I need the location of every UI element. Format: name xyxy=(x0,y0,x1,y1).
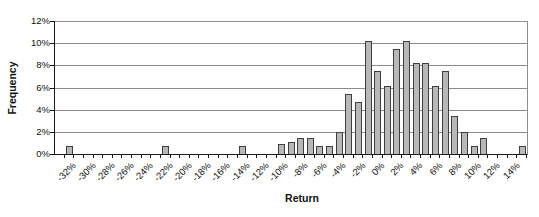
gridline xyxy=(55,65,527,66)
histogram-bar xyxy=(365,41,372,154)
x-tick-mark xyxy=(266,155,267,158)
y-tick-label: 0% xyxy=(18,148,50,159)
x-tick-mark xyxy=(73,155,74,158)
x-tick-mark xyxy=(121,155,122,158)
x-tick-mark xyxy=(218,155,219,158)
x-tick-mark xyxy=(285,155,286,158)
histogram-bar xyxy=(451,116,458,154)
x-tick-label: 4% xyxy=(408,160,425,177)
histogram-bar xyxy=(432,86,439,154)
y-tick-label: 12% xyxy=(18,15,50,26)
x-tick-label: 6% xyxy=(427,160,444,177)
x-tick-mark xyxy=(102,155,103,158)
histogram-bar xyxy=(278,144,285,154)
y-tick-mark xyxy=(50,21,54,22)
x-tick-mark xyxy=(507,155,508,158)
x-tick-label: 2% xyxy=(388,160,405,177)
x-tick-label: -18% xyxy=(190,160,213,183)
histogram-bar xyxy=(307,138,314,154)
x-tick-mark xyxy=(372,155,373,158)
x-tick-mark xyxy=(64,155,65,158)
x-tick-label: -4% xyxy=(328,160,348,180)
histogram-bar xyxy=(355,102,362,154)
x-tick-mark xyxy=(112,155,113,158)
x-tick-label: -6% xyxy=(309,160,329,180)
x-tick-mark xyxy=(353,155,354,158)
x-tick-label: -30% xyxy=(74,160,97,183)
x-tick-label: -2% xyxy=(347,160,367,180)
x-tick-label: -32% xyxy=(55,160,78,183)
x-tick-mark xyxy=(276,155,277,158)
x-tick-mark xyxy=(516,155,517,158)
x-tick-mark xyxy=(333,155,334,158)
gridline xyxy=(55,88,527,89)
histogram-bar xyxy=(288,142,295,154)
histogram-bar xyxy=(326,146,333,154)
x-tick-mark xyxy=(468,155,469,158)
x-tick-label: -8% xyxy=(290,160,310,180)
x-tick-mark xyxy=(131,155,132,158)
x-tick-mark xyxy=(189,155,190,158)
x-tick-label: -26% xyxy=(113,160,136,183)
x-tick-mark xyxy=(410,155,411,158)
x-tick-mark xyxy=(391,155,392,158)
histogram-bar xyxy=(413,63,420,154)
x-tick-mark xyxy=(401,155,402,158)
x-tick-label: 0% xyxy=(369,160,386,177)
x-tick-label: -12% xyxy=(247,160,270,183)
x-tick-label: -16% xyxy=(209,160,232,183)
histogram-bar xyxy=(162,146,169,154)
x-tick-mark xyxy=(430,155,431,158)
x-tick-label: -10% xyxy=(267,160,290,183)
x-tick-label: -28% xyxy=(93,160,116,183)
x-tick-mark xyxy=(304,155,305,158)
x-tick-label: -24% xyxy=(132,160,155,183)
plot-area xyxy=(54,21,528,155)
y-tick-label: 10% xyxy=(18,37,50,48)
y-tick-label: 4% xyxy=(18,104,50,115)
y-tick-label: 8% xyxy=(18,59,50,70)
y-tick-mark xyxy=(50,65,54,66)
histogram-bar xyxy=(384,86,391,154)
x-axis-title: Return xyxy=(66,192,538,204)
x-tick-mark xyxy=(141,155,142,158)
x-tick-label: -22% xyxy=(151,160,174,183)
y-tick-mark xyxy=(50,132,54,133)
x-tick-mark xyxy=(459,155,460,158)
x-tick-label: 14% xyxy=(500,160,521,181)
x-tick-mark xyxy=(343,155,344,158)
x-tick-mark xyxy=(150,155,151,158)
histogram-bar xyxy=(519,146,526,154)
x-tick-mark xyxy=(487,155,488,158)
y-axis-title-text: Frequency xyxy=(6,61,18,114)
x-tick-mark xyxy=(497,155,498,158)
x-tick-label: -14% xyxy=(228,160,251,183)
x-tick-mark xyxy=(198,155,199,158)
histogram-bar xyxy=(442,71,449,154)
histogram-bar xyxy=(336,132,343,154)
gridline xyxy=(55,21,527,22)
x-tick-label: -20% xyxy=(170,160,193,183)
x-tick-mark xyxy=(478,155,479,158)
x-tick-mark xyxy=(227,155,228,158)
histogram-bar xyxy=(297,138,304,154)
x-tick-mark xyxy=(439,155,440,158)
histogram-bar xyxy=(66,146,73,154)
y-tick-mark xyxy=(50,88,54,89)
histogram-bar xyxy=(471,146,478,154)
x-tick-mark xyxy=(170,155,171,158)
x-tick-mark xyxy=(420,155,421,158)
x-tick-mark xyxy=(237,155,238,158)
histogram-bar xyxy=(461,132,468,154)
x-tick-mark xyxy=(526,155,527,158)
histogram-bar xyxy=(422,63,429,154)
x-tick-mark xyxy=(449,155,450,158)
x-tick-mark xyxy=(93,155,94,158)
histogram-bar xyxy=(316,146,323,154)
x-tick-mark xyxy=(256,155,257,158)
x-tick-mark xyxy=(382,155,383,158)
x-tick-label: 8% xyxy=(446,160,463,177)
x-tick-mark xyxy=(208,155,209,158)
histogram-bar xyxy=(345,94,352,154)
gridline xyxy=(55,110,527,111)
